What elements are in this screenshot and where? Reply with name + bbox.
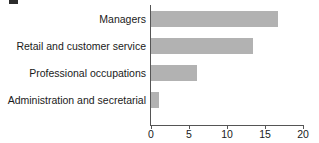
category-label: Professional occupations — [29, 68, 146, 79]
bar-row: Retail and customer service — [151, 38, 253, 54]
plot-area: Managers Retail and customer service Pro… — [151, 5, 303, 125]
x-axis-tick-label: 20 — [297, 129, 309, 140]
cropped-text-fragment — [9, 0, 18, 4]
x-axis-tick-label: 0 — [148, 129, 154, 140]
x-axis-tick-label: 5 — [186, 129, 192, 140]
bar-professional-occupations — [151, 65, 197, 81]
x-axis-tick-label: 15 — [259, 129, 271, 140]
bar-row: Managers — [151, 11, 278, 27]
bar-retail-and-customer-service — [151, 38, 253, 54]
category-label: Managers — [99, 14, 146, 25]
bar-administration-and-secretarial — [151, 92, 159, 108]
bar-row: Administration and secretarial — [151, 92, 159, 108]
category-label: Administration and secretarial — [8, 95, 146, 106]
bar-managers — [151, 11, 278, 27]
x-axis-tick-label: 10 — [221, 129, 233, 140]
category-label: Retail and customer service — [16, 41, 146, 52]
bar-chart: Managers Retail and customer service Pro… — [0, 0, 319, 143]
bar-row: Professional occupations — [151, 65, 197, 81]
